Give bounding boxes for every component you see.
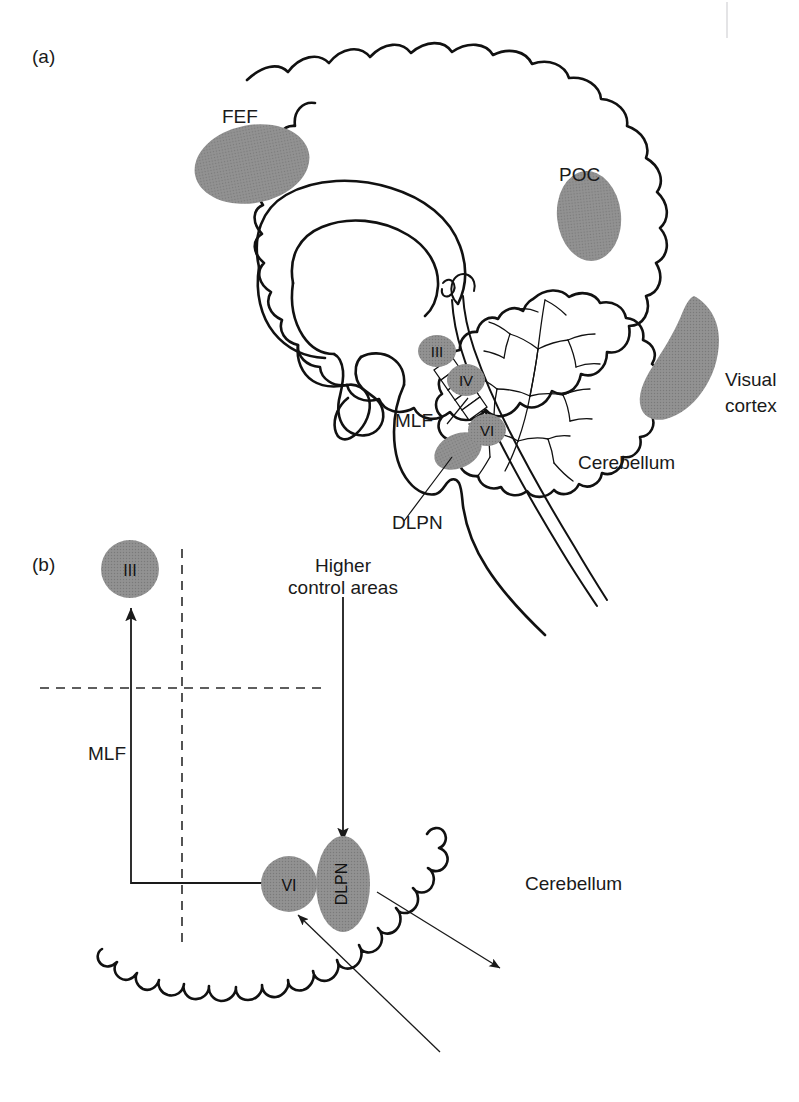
nucleus-vi-a-label: VI <box>480 422 494 439</box>
higher-control-label-line2: control areas <box>288 577 398 598</box>
brainstem-posterior-border-inner <box>463 296 607 600</box>
higher-control-label-line1: Higher <box>315 555 372 576</box>
cerebellum-label-a: Cerebellum <box>578 452 675 473</box>
corpus-callosum-outer <box>257 181 465 304</box>
panel-a-label: (a) <box>32 46 55 67</box>
fef-label: FEF <box>222 106 258 127</box>
nucleus-vi-b-label: VI <box>281 877 296 894</box>
nucleus-dlpn-b-label: DLPN <box>333 863 350 906</box>
nucleus-iv-a-label: IV <box>459 372 473 389</box>
mlf-pathway-line <box>131 608 262 883</box>
poc-label: POC <box>559 164 600 185</box>
optic-chiasm-contour <box>361 353 404 385</box>
mlf-label-b: MLF <box>88 743 126 764</box>
cerebellum-outline-b <box>98 828 448 1001</box>
corpus-callosum-inner <box>292 220 438 316</box>
anatomical-figure: (a) <box>0 0 799 1102</box>
visual-cortex-label-line2: cortex <box>725 395 777 416</box>
visual-cortex-label-line1: Visual <box>725 369 776 390</box>
nucleus-iii-a-label: III <box>431 343 444 360</box>
cerebellum-label-b: Cerebellum <box>525 873 622 894</box>
visual-cortex-region <box>640 296 719 420</box>
dlpn-label-a: DLPN <box>392 512 443 533</box>
nucleus-iii-b-label: III <box>123 562 136 579</box>
septum-ventricle-contour <box>292 283 334 354</box>
pituitary-stalk-and-gland <box>334 354 383 435</box>
panel-b: (b) III VI DLPN MLF Higher c <box>32 540 622 1052</box>
cerebellum-to-vi-arrow <box>298 915 440 1052</box>
figure-root: (a) <box>0 0 799 1102</box>
fef-region <box>188 115 317 214</box>
mlf-label-a: MLF <box>395 410 433 431</box>
panel-b-label: (b) <box>32 554 55 575</box>
